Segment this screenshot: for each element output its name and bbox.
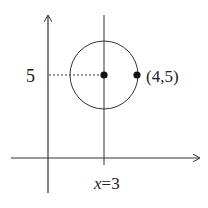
point-dot xyxy=(133,71,140,78)
line-label: x=3 xyxy=(93,174,120,193)
line-label-rest: =3 xyxy=(102,174,120,193)
center-dot xyxy=(100,71,107,78)
y-value-label: 5 xyxy=(26,66,35,86)
point-label: (4,5) xyxy=(146,67,179,86)
diagram: 5 (4,5) x=3 xyxy=(0,0,208,208)
